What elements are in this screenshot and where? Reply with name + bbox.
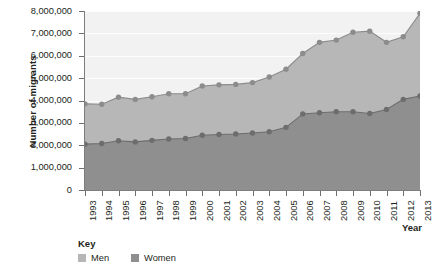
x-axis-title: Year [402, 222, 422, 233]
x-axis-tick-mark [152, 191, 153, 196]
x-axis-tick-label: 1999 [189, 200, 198, 221]
data-point-men-2001 [216, 82, 221, 87]
migrants-area-chart: Number of migrants 01,000,0002,000,0003,… [0, 0, 438, 273]
x-axis-tick-mark [353, 191, 354, 196]
data-point-women-2005 [283, 125, 288, 130]
data-point-women-2009 [350, 109, 355, 114]
data-point-men-2013 [417, 11, 420, 16]
x-axis-tick-label: 2013 [424, 200, 433, 221]
data-point-men-2003 [250, 80, 255, 85]
data-point-women-2003 [250, 130, 255, 135]
x-axis-tick-mark [253, 191, 254, 196]
legend-item-women[interactable]: Women [131, 253, 176, 263]
data-point-men-2002 [233, 82, 238, 87]
x-axis-tick-labels: 1993199419951996199719981999200020012002… [0, 197, 438, 237]
legend-items: MenWomen [78, 253, 176, 263]
y-axis-tick-label: 7,000,000 [31, 29, 72, 38]
legend-label-men: Men [91, 253, 109, 263]
data-point-women-1995 [116, 138, 121, 143]
x-axis-tick-label: 1994 [105, 200, 114, 221]
legend-label-women: Women [144, 253, 176, 263]
x-axis-tick-label: 1996 [139, 200, 148, 221]
x-axis-tick-label: 2009 [357, 200, 366, 221]
series-svg [85, 11, 420, 190]
x-axis-tick-label: 2003 [256, 200, 265, 221]
x-axis-tick-label: 2006 [306, 200, 315, 221]
legend-title: Key [78, 238, 176, 249]
legend-swatch-women [131, 254, 139, 262]
x-axis-tick-mark [420, 191, 421, 196]
data-point-women-2010 [367, 111, 372, 116]
x-axis-tick-mark [387, 191, 388, 196]
x-axis-tick-mark [370, 191, 371, 196]
x-axis-tick-label: 2012 [407, 200, 416, 221]
data-point-women-2002 [233, 131, 238, 136]
data-point-women-2011 [384, 107, 389, 112]
legend-item-men[interactable]: Men [78, 253, 109, 263]
data-point-women-2008 [334, 109, 339, 114]
y-axis-tick-label: 4,000,000 [31, 96, 72, 105]
x-axis-tick-mark [219, 191, 220, 196]
data-point-women-1998 [166, 136, 171, 141]
y-axis-tick-label: 0 [67, 186, 72, 195]
data-point-men-1997 [149, 94, 154, 99]
y-axis-tick-label: 3,000,000 [31, 118, 72, 127]
legend: Key MenWomen [78, 238, 176, 263]
x-axis-tick-label: 2002 [239, 200, 248, 221]
x-axis-tick-mark [320, 191, 321, 196]
data-point-women-2001 [216, 132, 221, 137]
y-axis-tick-label: 2,000,000 [31, 141, 72, 150]
x-axis-tick-label: 2008 [340, 200, 349, 221]
x-axis-tick-label: 2011 [390, 201, 399, 221]
x-axis-tick-mark [336, 191, 337, 196]
data-point-women-1994 [99, 141, 104, 146]
x-axis-tick-label: 2005 [290, 200, 299, 221]
y-axis-tick-label: 5,000,000 [31, 74, 72, 83]
x-axis-tick-mark [85, 191, 86, 196]
data-point-men-2012 [401, 34, 406, 39]
x-axis-tick-mark [202, 191, 203, 196]
x-axis-tick-mark [169, 191, 170, 196]
x-axis-tick-label: 1998 [172, 200, 181, 221]
y-axis-tick-label: 8,000,000 [31, 7, 72, 16]
x-axis-tick-mark [303, 191, 304, 196]
x-axis-tick-mark [269, 191, 270, 196]
x-axis-tick-label: 2000 [206, 200, 215, 221]
data-point-men-2004 [267, 74, 272, 79]
x-axis-tick-mark [135, 191, 136, 196]
data-point-men-2000 [200, 83, 205, 88]
x-axis-tick-label: 1993 [89, 200, 98, 221]
x-axis-tick-label: 1995 [122, 200, 131, 221]
data-point-women-2012 [401, 97, 406, 102]
x-axis-tick-label: 2010 [373, 200, 382, 221]
data-point-men-1995 [116, 94, 121, 99]
x-axis-tick-mark [186, 191, 187, 196]
data-point-men-2008 [334, 37, 339, 42]
x-axis-tick-mark [403, 191, 404, 196]
data-point-women-2004 [267, 129, 272, 134]
plot-area [85, 11, 420, 190]
x-axis-tick-mark [119, 191, 120, 196]
x-axis-tick-label: 2007 [323, 200, 332, 221]
data-point-men-2006 [300, 51, 305, 56]
x-axis-tick-label: 2004 [273, 200, 282, 221]
data-point-women-1999 [183, 136, 188, 141]
data-point-men-1994 [99, 102, 104, 107]
x-axis-tick-mark [102, 191, 103, 196]
y-axis-tick-label: 6,000,000 [31, 51, 72, 60]
y-axis-tick-label: 1,000,000 [31, 163, 72, 172]
legend-swatch-men [78, 254, 86, 262]
data-point-women-2000 [200, 132, 205, 137]
data-point-women-1997 [149, 138, 154, 143]
data-point-men-2005 [283, 66, 288, 71]
data-point-women-2007 [317, 110, 322, 115]
data-point-men-2009 [350, 30, 355, 35]
data-point-men-1999 [183, 91, 188, 96]
data-point-men-1996 [133, 97, 138, 102]
data-point-men-2010 [367, 28, 372, 33]
y-axis-tick-labels: 01,000,0002,000,0003,000,0004,000,0005,0… [0, 0, 80, 200]
data-point-women-1996 [133, 139, 138, 144]
data-point-men-2007 [317, 40, 322, 45]
x-axis-tick-label: 2001 [223, 200, 232, 221]
x-axis-tick-mark [236, 191, 237, 196]
